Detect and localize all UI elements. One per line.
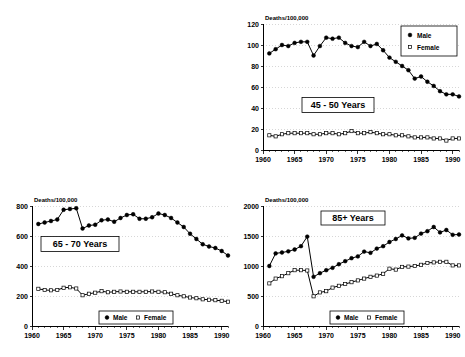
data-point-female <box>106 291 109 294</box>
legend[interactable]: MaleFemale <box>330 311 404 324</box>
panel-title: 65 - 70 Years <box>41 237 119 252</box>
x-tick-label: 1965 <box>56 332 72 339</box>
data-point-female <box>331 132 334 135</box>
data-point-male <box>375 42 379 46</box>
data-point-male <box>425 80 429 84</box>
data-point-male <box>331 266 335 270</box>
data-point-male <box>299 40 303 44</box>
data-point-male <box>432 84 436 88</box>
x-tick-label: 1980 <box>382 156 398 163</box>
data-point-male <box>312 54 316 58</box>
data-point-female <box>344 132 347 135</box>
data-point-male <box>305 40 309 44</box>
chart-panel-85-plus: 0500100015002000196019651970197519801985… <box>233 186 463 356</box>
data-point-female <box>226 300 229 303</box>
chart-45-50-svg: 0204060801001201960196519701975198019851… <box>233 2 463 182</box>
data-point-male <box>413 77 417 81</box>
data-point-female <box>419 263 422 266</box>
data-point-male <box>144 217 148 221</box>
y-tick-label: 1000 <box>243 263 259 270</box>
data-point-female <box>144 290 147 293</box>
data-point-male <box>425 229 429 233</box>
data-point-male <box>74 206 78 210</box>
data-point-female <box>367 316 370 319</box>
data-point-male <box>36 222 40 226</box>
data-point-male <box>388 56 392 60</box>
data-point-male <box>274 252 278 256</box>
data-point-male <box>93 223 97 227</box>
data-point-male <box>318 44 322 48</box>
data-point-female <box>337 284 340 287</box>
y-tick-label: 0 <box>24 323 28 330</box>
data-point-male <box>267 264 271 268</box>
data-point-female <box>394 268 397 271</box>
data-point-female <box>136 316 139 319</box>
data-point-male <box>331 37 335 41</box>
data-point-male <box>138 217 142 221</box>
data-point-male <box>169 216 173 220</box>
data-point-female <box>163 291 166 294</box>
data-point-male <box>324 36 328 40</box>
y-tick-label: 80 <box>251 63 259 70</box>
data-point-male <box>125 213 129 217</box>
x-axis-ticks: 1960196519701975198019851990 <box>255 150 460 163</box>
data-point-male <box>286 44 290 48</box>
x-tick-label: 1960 <box>255 332 271 339</box>
data-point-female <box>375 274 378 277</box>
data-point-female <box>451 137 454 140</box>
data-point-female <box>274 277 277 280</box>
data-point-male <box>375 247 379 251</box>
data-point-male <box>207 245 211 249</box>
data-point-male <box>337 262 341 266</box>
data-point-male <box>157 212 161 216</box>
data-point-female <box>426 261 429 264</box>
data-point-female <box>119 290 122 293</box>
x-tick-label: 1970 <box>87 332 103 339</box>
x-tick-label: 1975 <box>350 156 366 163</box>
data-point-male <box>43 221 47 225</box>
data-point-female <box>220 299 223 302</box>
data-point-male <box>400 234 404 238</box>
data-point-male <box>438 231 442 235</box>
data-point-female <box>426 136 429 139</box>
data-point-male <box>356 255 360 259</box>
data-point-male <box>201 242 205 246</box>
figure-grid: 0204060801001201960196519701975198019851… <box>0 0 465 357</box>
y-tick-label: 600 <box>16 233 28 240</box>
data-point-female <box>413 264 416 267</box>
data-point-female <box>81 294 84 297</box>
data-point-male <box>119 216 123 220</box>
data-point-female <box>369 131 372 134</box>
data-point-female <box>207 298 210 301</box>
data-point-male <box>407 68 411 72</box>
data-point-female <box>388 267 391 270</box>
data-point-female <box>394 134 397 137</box>
data-point-female <box>363 277 366 280</box>
data-point-female <box>157 290 160 293</box>
data-point-male <box>343 259 347 263</box>
data-point-female <box>344 282 347 285</box>
data-point-female <box>268 282 271 285</box>
y-tick-label: 0 <box>255 323 259 330</box>
data-point-female <box>388 133 391 136</box>
series-female <box>37 286 230 304</box>
legend-label-female: Female <box>375 314 398 321</box>
x-tick-label: 1965 <box>287 332 303 339</box>
data-point-female <box>407 135 410 138</box>
data-point-male <box>407 237 411 241</box>
data-point-male <box>220 249 224 253</box>
data-point-male <box>369 44 373 48</box>
legend[interactable]: MaleFemale <box>401 26 457 56</box>
y-axis-ticks: 020406080100120 <box>247 21 263 154</box>
legend[interactable]: MaleFemale <box>99 311 173 324</box>
data-point-male <box>286 249 290 253</box>
data-point-female <box>75 287 78 290</box>
x-tick-label: 1985 <box>413 332 429 339</box>
data-point-female <box>432 137 435 140</box>
data-point-male <box>362 40 366 44</box>
data-point-male <box>337 36 341 40</box>
y-tick-label: 100 <box>247 42 259 49</box>
data-point-female <box>169 292 172 295</box>
data-point-female <box>306 132 309 135</box>
data-point-female <box>201 298 204 301</box>
